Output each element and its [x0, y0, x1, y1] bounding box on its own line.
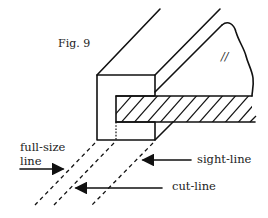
top-left-edge	[97, 9, 160, 75]
full-size-label-line2: line	[20, 154, 42, 168]
sight-line-label: sight-line	[197, 152, 252, 166]
inner-edge	[155, 25, 222, 92]
cut-line-label: cut-line	[172, 179, 216, 193]
figure-caption: Fig. 9	[58, 37, 90, 50]
grain-mark: //	[220, 50, 230, 63]
hatching	[105, 92, 265, 126]
hatch-end-tick	[250, 116, 256, 122]
front-face	[97, 75, 155, 140]
lower-receding-edge	[155, 122, 173, 140]
top-right-edge	[155, 9, 220, 75]
sight-line	[92, 143, 153, 205]
diagram-canvas: Fig. 9 // full-size line sight-line cut-…	[0, 0, 268, 218]
full-size-label-line1: full-size	[20, 140, 66, 154]
